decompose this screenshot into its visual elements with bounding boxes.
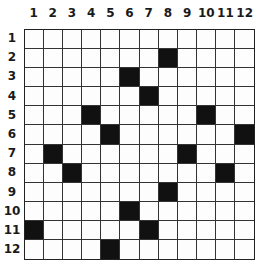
grid-cell-filled <box>120 202 139 221</box>
grid-cell-empty <box>120 106 139 125</box>
grid-cell-empty <box>197 221 216 240</box>
grid-cell-empty <box>178 125 197 144</box>
grid-cell-empty <box>120 125 139 144</box>
grid-cell-empty <box>44 106 63 125</box>
row-label: 12 <box>2 240 22 259</box>
row-label: 1 <box>2 29 22 48</box>
grid-cell-empty <box>44 87 63 106</box>
grid-cell-empty <box>82 30 101 49</box>
grid-cell-empty <box>120 49 139 68</box>
grid-cell-empty <box>25 68 44 87</box>
grid-cell-empty <box>63 145 82 164</box>
grid-cell-empty <box>44 183 63 202</box>
grid-cell-empty <box>159 30 178 49</box>
grid-cell-empty <box>140 30 159 49</box>
grid-cell-empty <box>82 240 101 259</box>
row-label: 10 <box>2 202 22 221</box>
grid-cell-filled <box>63 164 82 183</box>
grid-cell-filled <box>140 221 159 240</box>
grid-cell-empty <box>159 87 178 106</box>
grid-cell-empty <box>197 202 216 221</box>
row-label: 3 <box>2 67 22 86</box>
row-label: 6 <box>2 125 22 144</box>
grid-cell-empty <box>216 125 235 144</box>
grid-cell-empty <box>159 125 178 144</box>
column-label: 1 <box>24 6 43 20</box>
row-label: 7 <box>2 144 22 163</box>
grid-cell-empty <box>25 145 44 164</box>
grid-cell-empty <box>159 68 178 87</box>
grid-cell-empty <box>44 164 63 183</box>
grid-cell-empty <box>63 30 82 49</box>
grid-cell-empty <box>44 49 63 68</box>
grid-cell-empty <box>197 125 216 144</box>
grid-cell-empty <box>235 106 254 125</box>
grid-cell-empty <box>140 145 159 164</box>
grid-cell-empty <box>235 240 254 259</box>
grid-cell-empty <box>216 87 235 106</box>
grid-cell-empty <box>82 164 101 183</box>
grid-cell-empty <box>101 221 120 240</box>
grid-cell-empty <box>101 30 120 49</box>
grid-cell-filled <box>82 106 101 125</box>
grid-cell-empty <box>101 145 120 164</box>
grid-cell-empty <box>216 30 235 49</box>
grid-cell-empty <box>120 87 139 106</box>
grid-cell-empty <box>120 145 139 164</box>
grid-cell-empty <box>159 221 178 240</box>
grid-cell-empty <box>178 183 197 202</box>
grid-cell-empty <box>159 145 178 164</box>
grid-cell-empty <box>216 145 235 164</box>
grid-cell-empty <box>101 68 120 87</box>
grid-cell-empty <box>140 202 159 221</box>
column-label: 4 <box>82 6 101 20</box>
grid-cell-filled <box>25 221 44 240</box>
grid-cell-empty <box>82 68 101 87</box>
row-label: 4 <box>2 87 22 106</box>
grid-cell-empty <box>63 221 82 240</box>
grid-cell-empty <box>140 125 159 144</box>
grid-cell-empty <box>120 183 139 202</box>
row-label: 5 <box>2 106 22 125</box>
grid-cell-empty <box>178 49 197 68</box>
column-label: 7 <box>139 6 158 20</box>
row-labels: 123456789101112 <box>2 29 22 259</box>
grid-cell-empty <box>235 68 254 87</box>
column-label: 8 <box>158 6 177 20</box>
grid-cell-empty <box>197 87 216 106</box>
grid-cell-filled <box>101 240 120 259</box>
row-label: 8 <box>2 163 22 182</box>
grid-cell-empty <box>140 106 159 125</box>
grid-cell-empty <box>216 49 235 68</box>
grid-cell-empty <box>178 68 197 87</box>
grid-cell-empty <box>25 87 44 106</box>
grid-cell-empty <box>178 30 197 49</box>
grid-cell-empty <box>140 240 159 259</box>
column-label: 5 <box>101 6 120 20</box>
grid-cell-empty <box>63 87 82 106</box>
grid-cell-empty <box>63 68 82 87</box>
grid-cell-empty <box>197 183 216 202</box>
grid-cell-filled <box>120 68 139 87</box>
grid-cell-empty <box>63 49 82 68</box>
grid-cell-empty <box>101 202 120 221</box>
grid-cell-empty <box>216 221 235 240</box>
grid-cell-empty <box>159 202 178 221</box>
grid-cell-empty <box>235 183 254 202</box>
grid-cell-empty <box>25 202 44 221</box>
grid-cell-empty <box>44 125 63 144</box>
grid-cell-empty <box>82 145 101 164</box>
grid-cell-empty <box>216 106 235 125</box>
grid-cell-filled <box>140 87 159 106</box>
grid-cell-empty <box>140 49 159 68</box>
grid-cell-empty <box>25 106 44 125</box>
grid-cell-empty <box>197 68 216 87</box>
column-labels: 123456789101112 <box>24 6 254 20</box>
grid-cell-empty <box>25 125 44 144</box>
grid-cell-empty <box>82 183 101 202</box>
grid-cell-empty <box>120 240 139 259</box>
column-label: 3 <box>62 6 81 20</box>
grid-cell-empty <box>178 221 197 240</box>
grid-cell-empty <box>235 221 254 240</box>
grid-cell-empty <box>235 164 254 183</box>
